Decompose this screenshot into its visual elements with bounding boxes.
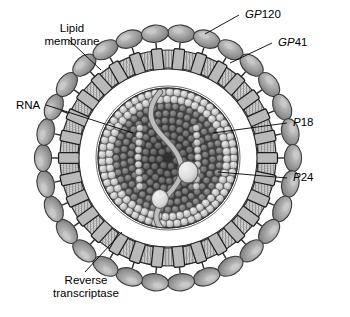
capsid-subunit bbox=[152, 174, 159, 181]
capsid-subunit bbox=[228, 168, 236, 176]
label-gp120-number: 120 bbox=[262, 8, 281, 20]
capsid-subunit bbox=[212, 176, 219, 183]
capsid-subunit bbox=[163, 95, 171, 103]
capsid-subunit bbox=[182, 140, 189, 147]
capsid-subunit bbox=[204, 135, 211, 142]
reverse-transcriptase-enzyme bbox=[152, 190, 169, 209]
capsid-subunit bbox=[136, 132, 143, 139]
label-gp120: GP120 bbox=[245, 8, 281, 21]
capsid-subunit bbox=[99, 143, 107, 151]
label-p24: P24 bbox=[293, 171, 313, 184]
gp120-spike-head bbox=[114, 27, 145, 52]
capsid-subunit bbox=[182, 188, 189, 195]
capsid-subunit bbox=[151, 163, 158, 170]
capsid-subunit bbox=[183, 210, 191, 218]
capsid-subunit bbox=[128, 181, 135, 188]
capsid-subunit bbox=[136, 176, 143, 183]
capsid-subunit bbox=[200, 166, 207, 173]
gp120-spike-head bbox=[191, 265, 222, 290]
capsid-subunit bbox=[105, 157, 113, 165]
capsid-subunit bbox=[228, 140, 236, 148]
capsid-subunit bbox=[142, 156, 149, 163]
gp120-spike-head bbox=[141, 272, 170, 292]
capsid-subunit bbox=[206, 170, 213, 177]
capsid-subunit bbox=[230, 154, 238, 162]
gp41-block bbox=[172, 245, 185, 267]
gp120-spike bbox=[275, 145, 302, 172]
capsid-subunit bbox=[193, 132, 200, 139]
capsid-subunit bbox=[179, 105, 186, 112]
capsid-subunit bbox=[143, 163, 150, 170]
capsid-subunit bbox=[122, 168, 129, 175]
label-gp120-prefix: GP bbox=[245, 8, 262, 20]
figure-canvas: Lipid membrane RNA Reverse transcriptase… bbox=[0, 0, 350, 317]
capsid-subunit bbox=[216, 147, 223, 154]
gp120-spike-head bbox=[34, 145, 51, 172]
capsid-subunit bbox=[156, 156, 163, 163]
capsid-subunit bbox=[120, 153, 127, 160]
capsid-subunit bbox=[169, 125, 176, 132]
gp120-spike bbox=[191, 27, 222, 56]
capsid-subunit bbox=[165, 103, 172, 110]
capsid-subunit bbox=[131, 194, 138, 201]
gp41-block bbox=[257, 153, 278, 164]
label-lipid-membrane-line1: Lipid bbox=[36, 22, 108, 35]
capsid-subunit bbox=[136, 183, 143, 190]
label-lipid-membrane: Lipid membrane bbox=[36, 22, 108, 48]
gp120-spike bbox=[34, 145, 61, 172]
capsid-subunit bbox=[175, 190, 182, 197]
capsid-subunit bbox=[193, 124, 200, 131]
capsid-subunit bbox=[208, 163, 215, 170]
capsid-subunit bbox=[169, 213, 177, 221]
capsid-subunit bbox=[101, 172, 109, 180]
capsid-subunit bbox=[170, 96, 178, 104]
leader-gp120 bbox=[205, 15, 239, 34]
label-p24-prefix: P bbox=[293, 171, 301, 183]
gp120-spike-head bbox=[191, 27, 222, 52]
capsid-subunit bbox=[170, 110, 177, 117]
capsid-subunit bbox=[229, 161, 237, 169]
capsid-subunit bbox=[176, 127, 183, 134]
gp120-head-highlight bbox=[293, 149, 299, 159]
capsid-subunit bbox=[161, 117, 168, 124]
capsid-subunit bbox=[121, 182, 128, 189]
capsid-subunit bbox=[202, 151, 209, 158]
gp120-spike-head bbox=[35, 169, 57, 199]
capsid-subunit bbox=[194, 146, 201, 153]
gp120-spike bbox=[167, 264, 196, 292]
capsid-subunit bbox=[157, 168, 164, 175]
capsid-subunit bbox=[171, 132, 178, 139]
capsid-subunit bbox=[166, 177, 173, 184]
capsid-subunit bbox=[201, 128, 208, 135]
capsid-subunit bbox=[183, 122, 190, 129]
capsid-subunit bbox=[141, 116, 148, 123]
capsid-subunit bbox=[135, 161, 142, 168]
capsid-subunit bbox=[113, 147, 120, 154]
gp120-spike-head bbox=[167, 272, 196, 292]
label-gp41-number: 41 bbox=[295, 36, 308, 48]
capsid-subunit bbox=[135, 146, 142, 153]
capsid-subunit bbox=[137, 111, 144, 118]
capsid-subunit bbox=[125, 188, 132, 195]
capsid-subunit bbox=[157, 103, 164, 110]
capsid-subunit bbox=[194, 154, 201, 161]
label-lipid-membrane-line2: membrane bbox=[36, 35, 108, 48]
capsid-subunit bbox=[182, 130, 189, 137]
capsid-subunit bbox=[162, 110, 169, 117]
p24-capsid bbox=[98, 88, 238, 228]
capsid-subunit bbox=[136, 198, 143, 205]
capsid-subunit bbox=[155, 111, 162, 118]
capsid-subunit bbox=[176, 119, 183, 126]
capsid-subunit bbox=[127, 150, 134, 157]
label-reverse-transcriptase-line1: Reverse bbox=[32, 274, 140, 287]
capsid-subunit bbox=[164, 206, 171, 213]
capsid-subunit bbox=[108, 171, 116, 179]
label-gp41-prefix: GP bbox=[278, 36, 295, 48]
gp120-spike bbox=[141, 264, 170, 292]
capsid-subunit bbox=[125, 174, 132, 181]
capsid-subunit bbox=[214, 140, 221, 147]
capsid-subunit bbox=[143, 202, 150, 209]
capsid-subunit bbox=[160, 162, 167, 169]
capsid-subunit bbox=[168, 163, 175, 170]
gp120-head-highlight bbox=[38, 156, 44, 166]
